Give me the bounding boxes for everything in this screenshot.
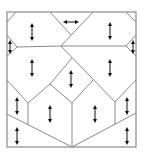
edge bbox=[7, 35, 17, 56]
edge bbox=[115, 80, 136, 102]
edge bbox=[61, 46, 115, 102]
edge bbox=[126, 35, 136, 56]
edge bbox=[17, 46, 61, 47]
edge bbox=[7, 80, 93, 103]
edge bbox=[126, 12, 136, 22]
edge bbox=[50, 12, 71, 35]
edge bbox=[50, 58, 72, 84]
tiling-diagram bbox=[0, 0, 145, 161]
edge bbox=[7, 12, 16, 22]
